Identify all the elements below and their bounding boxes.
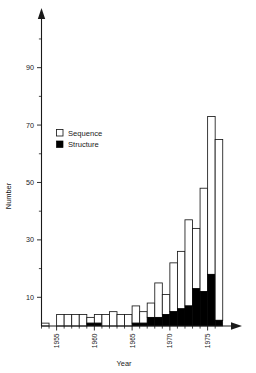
bar-segment-sequence — [208, 116, 216, 274]
legend-label-sequence: Sequence — [68, 129, 102, 138]
legend-swatch-structure — [57, 141, 64, 148]
y-tick-label: 10 — [26, 293, 34, 302]
bar-segment-sequence — [185, 220, 193, 306]
bar-segment-sequence — [170, 263, 178, 312]
histogram-chart: 1030507090 19551960196519701975 Year Num… — [0, 0, 256, 373]
bar-segment-structure — [162, 315, 170, 326]
bar-segment-structure — [155, 317, 163, 326]
x-tick-label: 1960 — [91, 333, 98, 348]
bar-segment-sequence — [117, 315, 125, 326]
bar-segment-sequence — [200, 188, 208, 291]
bar-segment-structure — [208, 274, 216, 326]
x-ticks — [42, 326, 216, 331]
y-tick-label: 30 — [26, 235, 34, 244]
bar-segment-sequence — [72, 315, 80, 326]
bar-segment-sequence — [94, 315, 102, 324]
y-tick-label: 70 — [26, 121, 34, 130]
bar-segment-sequence — [155, 283, 163, 317]
bar-segment-structure — [193, 289, 201, 326]
bar-segment-structure — [170, 312, 178, 326]
y-tick-label: 90 — [26, 63, 34, 72]
chart-legend: Sequence Structure — [57, 129, 103, 150]
y-tick-labels: 1030507090 — [26, 63, 34, 302]
y-axis-title: Number — [4, 182, 13, 209]
bar-segment-sequence — [57, 315, 65, 326]
bar-segment-sequence — [177, 251, 185, 308]
bar-segment-sequence — [162, 294, 170, 314]
legend-label-structure: Structure — [68, 140, 99, 149]
bar-segment-structure — [177, 309, 185, 326]
bar-segment-sequence — [132, 306, 140, 323]
bar-segment-sequence — [147, 303, 155, 317]
bar-segment-sequence — [125, 315, 133, 326]
x-tick-label: 1970 — [166, 333, 173, 348]
x-axis-arrow — [231, 322, 242, 329]
x-axis-title: Year — [117, 359, 132, 368]
chart-canvas: 1030507090 19551960196519701975 Year Num… — [0, 0, 256, 373]
x-tick-label: 1965 — [129, 333, 136, 348]
bar-segment-sequence — [87, 317, 95, 323]
legend-swatch-sequence — [57, 130, 64, 137]
bar-segment-sequence — [64, 315, 72, 326]
bar-segment-sequence — [109, 312, 117, 326]
bar-segment-sequence — [193, 228, 201, 288]
bar-segment-sequence — [140, 312, 148, 323]
bar-segment-structure — [200, 292, 208, 326]
bar-segment-sequence — [215, 139, 223, 320]
y-tick-label: 50 — [26, 178, 34, 187]
bar-segment-sequence — [102, 315, 110, 326]
x-tick-label: 1975 — [204, 333, 211, 348]
bar-segment-sequence — [79, 315, 87, 326]
bar-segment-structure — [185, 306, 193, 326]
x-tick-labels: 19551960196519701975 — [53, 333, 211, 348]
y-axis-arrow — [38, 8, 45, 19]
x-tick-label: 1955 — [53, 333, 60, 348]
bar-segment-structure — [215, 320, 223, 326]
y-ticks — [37, 39, 42, 297]
bar-segment-structure — [147, 317, 155, 326]
